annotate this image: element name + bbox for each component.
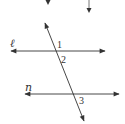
top-arrow-fragment-right [87, 0, 92, 13]
label-angle-1: 1 [57, 39, 62, 50]
diagram-canvas: ℓ n 1 2 3 [0, 0, 125, 124]
label-line-l: ℓ [10, 37, 15, 50]
label-angle-2: 2 [61, 54, 66, 65]
label-angle-3: 3 [79, 95, 84, 106]
top-arrow-fragment-left [46, 0, 51, 5]
transversal [45, 23, 84, 121]
label-line-n: n [25, 81, 32, 94]
